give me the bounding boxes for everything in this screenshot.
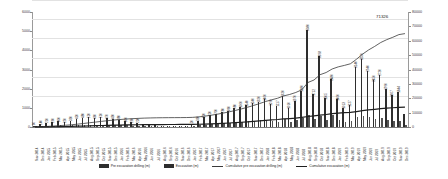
x-axis-tick-label: Mar 2017: [206, 148, 209, 161]
x-axis-tick-label: Jan 2017: [194, 148, 197, 161]
x-axis-tick-label: Oct 2019: [394, 148, 397, 161]
x-axis-tick-label: Sep 2018: [315, 147, 318, 161]
x-axis-tick-label: Jan 2015: [48, 148, 51, 161]
x-axis-tick-label: Nov 2018: [327, 147, 330, 161]
x-axis-tick-label: Aug 2018: [309, 147, 312, 161]
y-axis-right-tick-label: 30000: [412, 82, 442, 86]
x-axis-tick-label: Mar 2016: [133, 148, 136, 161]
data-annotation-label: 71326: [376, 14, 388, 19]
x-axis-tick-label: Feb 2018: [273, 148, 276, 161]
chart-legend: Pre excavation drilling (m)Excavation (m…: [0, 164, 448, 168]
legend-item[interactable]: Pre excavation drilling (m): [99, 164, 150, 168]
legend-item[interactable]: Cumulative pre excavation drilling (m): [212, 164, 282, 168]
legend-item[interactable]: Cumulative excavation (m): [296, 164, 349, 168]
x-axis-tick-label: Jun 2017: [224, 148, 227, 161]
x-axis-tick-label: Aug 2019: [382, 147, 385, 161]
x-axis-tick-label: Jul 2015: [85, 149, 88, 161]
y-axis-right-tick-label: 20000: [412, 96, 442, 100]
x-axis-tick-label: Nov 2019: [400, 147, 403, 161]
x-axis-tick-label: Dec 2014: [42, 147, 45, 161]
x-axis-tick-label: Jan 2019: [339, 148, 342, 161]
y-axis-right-tick-mark: [409, 127, 411, 128]
x-axis-tick-label: Dec 2015: [115, 147, 118, 161]
y-axis-left-tick-label: 4000: [2, 48, 30, 52]
x-axis-tick-label: Jul 2017: [230, 149, 233, 161]
x-axis-tick-label: Sep 2015: [97, 147, 100, 161]
x-axis-tick-label: Sep 2016: [170, 147, 173, 161]
x-axis-tick-label: Nov 2015: [109, 147, 112, 161]
y-axis-right-tick-label: 70000: [412, 24, 442, 28]
x-axis-tick-label: Jul 2018: [303, 149, 306, 161]
y-axis-right-tick-mark: [409, 41, 411, 42]
x-axis-tick-label: Jun 2015: [79, 148, 82, 161]
legend-label: Excavation (m): [176, 164, 199, 168]
x-axis-tick-label: Apr 2018: [285, 148, 288, 161]
legend-label: Pre excavation drilling (m): [111, 164, 150, 168]
x-axis-tick-label: May 2017: [218, 147, 221, 161]
y-axis-right-tick-mark: [409, 12, 411, 13]
x-axis-tick-label: Aug 2017: [236, 147, 239, 161]
x-axis-tick-label: Jul 2019: [376, 149, 379, 161]
x-axis-tick-label: Oct 2018: [321, 148, 324, 161]
y-axis-right-tick-label: 80000: [412, 10, 442, 14]
y-axis-right-tick-mark: [409, 84, 411, 85]
x-axis-tick-label: Feb 2019: [346, 148, 349, 161]
line-series-group: [32, 12, 408, 127]
y-axis-left-tick-label: 3000: [2, 68, 30, 72]
x-axis-tick-label: Jan 2018: [267, 148, 270, 161]
x-axis-tick-label: Feb 2017: [200, 148, 203, 161]
x-axis-tick-label: Aug 2015: [91, 147, 94, 161]
x-axis-tick-label: Dec 2016: [188, 147, 191, 161]
x-axis-tick-label: Apr 2017: [212, 148, 215, 161]
x-axis-tick-label: Mar 2019: [352, 148, 355, 161]
y-axis-left-tick-label: 2000: [2, 87, 30, 91]
x-axis-tick-label: Oct 2015: [103, 148, 106, 161]
x-axis-tick-label: Nov 2017: [255, 147, 258, 161]
x-axis-tick-label: Aug 2016: [164, 147, 167, 161]
x-axis-tick-label: Dec 2019: [406, 147, 409, 161]
x-axis-tick-label: May 2016: [145, 147, 148, 161]
chart-container: 6000500040003000200010000 80000700006000…: [0, 0, 448, 179]
x-axis-tick-label: Feb 2016: [127, 148, 130, 161]
y-axis-right-tick-mark: [409, 26, 411, 27]
y-axis-right-tick-mark: [409, 98, 411, 99]
x-axis-tick-label: Mar 2015: [60, 148, 63, 161]
x-axis-tick-label: Nov 2016: [182, 147, 185, 161]
legend-label: Cumulative pre excavation drilling (m): [225, 164, 282, 168]
y-axis-left-tick-label: 5000: [2, 29, 30, 33]
y-axis-left-tick-label: 6000: [2, 10, 30, 14]
x-axis-tick-label: Feb 2015: [54, 148, 57, 161]
gridline: [32, 0, 408, 1]
x-axis-tick-label: Jul 2016: [158, 149, 161, 161]
legend-swatch-icon: [99, 164, 109, 167]
x-axis-tick-label: Mar 2018: [279, 148, 282, 161]
x-axis-tick-label: Apr 2019: [358, 148, 361, 161]
x-axis-tick-label: Dec 2018: [333, 147, 336, 161]
legend-swatch-icon: [296, 166, 307, 167]
y-axis-left-tick-label: 0: [2, 125, 30, 129]
x-axis-tick-label: Oct 2017: [248, 148, 251, 161]
x-axis-tick-label: Sep 2019: [388, 147, 391, 161]
x-axis-tick-label: Jun 2019: [370, 148, 373, 161]
y-axis-right-tick-label: 50000: [412, 53, 442, 57]
y-axis-right-tick-mark: [409, 113, 411, 114]
y-axis-right-tick-label: 10000: [412, 111, 442, 115]
x-axis-tick-label: Apr 2016: [139, 148, 142, 161]
line-path: [35, 107, 405, 127]
x-axis-tick-label: Dec 2017: [261, 147, 264, 161]
x-axis-tick-label: May 2019: [364, 147, 367, 161]
x-axis-tick-label: Jun 2018: [297, 148, 300, 161]
y-axis-right-tick-label: 40000: [412, 68, 442, 72]
legend-swatch-icon: [164, 164, 174, 167]
legend-label: Cumulative excavation (m): [309, 164, 349, 168]
legend-item[interactable]: Excavation (m): [164, 164, 199, 168]
x-axis-tick-label: Apr 2015: [67, 148, 70, 161]
x-axis-tick-label: Nov 2014: [36, 147, 39, 161]
x-axis-tick-label: Oct 2016: [176, 148, 179, 161]
legend-swatch-icon: [212, 166, 223, 167]
y-axis-right-tick-mark: [409, 70, 411, 71]
y-axis-right-tick-mark: [409, 55, 411, 56]
y-axis-right-tick-label: 60000: [412, 39, 442, 43]
y-axis-left-tick-label: 1000: [2, 106, 30, 110]
x-axis-tick-label: Jan 2016: [121, 148, 124, 161]
